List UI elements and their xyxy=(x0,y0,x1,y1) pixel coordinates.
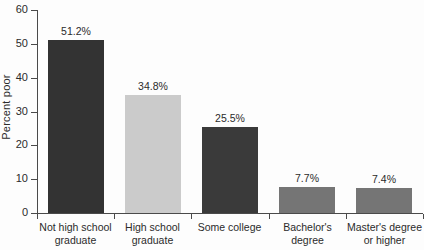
bar xyxy=(48,40,104,213)
x-axis-line xyxy=(37,213,423,214)
y-axis-tick-label: 0 xyxy=(2,207,28,218)
bar xyxy=(356,188,412,213)
bar xyxy=(279,187,335,213)
x-axis-tick xyxy=(191,214,192,219)
y-axis-tick-label: 20 xyxy=(2,139,28,150)
bar-value-label: 51.2% xyxy=(36,26,116,37)
y-axis-tick-label: 40 xyxy=(2,72,28,83)
x-axis-category-label: Bachelor's degree xyxy=(269,221,346,246)
bar-value-label: 34.8% xyxy=(113,81,193,92)
x-axis-category-label: Not high school graduate xyxy=(37,221,114,246)
y-axis-tick-label: 10 xyxy=(2,173,28,184)
x-axis-category-label: Some college xyxy=(191,221,268,234)
x-axis-category-label: Master's degree or higher xyxy=(346,221,423,246)
y-axis-tick-label: 60 xyxy=(2,4,28,15)
bar-chart: Percent poor 0102030405060 51.2%34.8%25.… xyxy=(0,0,424,250)
y-axis-tick-label: 50 xyxy=(2,38,28,49)
bar-value-label: 25.5% xyxy=(190,113,270,124)
y-axis-tick-label: 30 xyxy=(2,106,28,117)
bar xyxy=(202,127,258,213)
y-axis-tick xyxy=(31,78,38,79)
bar-value-label: 7.7% xyxy=(267,173,347,184)
y-axis-tick xyxy=(31,112,38,113)
bar-value-label: 7.4% xyxy=(344,174,424,185)
y-axis-tick xyxy=(31,179,38,180)
x-axis-tick xyxy=(346,214,347,219)
x-axis-tick xyxy=(37,214,38,219)
y-axis-tick xyxy=(31,145,38,146)
x-axis-tick xyxy=(269,214,270,219)
bar xyxy=(125,95,181,213)
y-axis-tick xyxy=(31,10,38,11)
x-axis-tick xyxy=(114,214,115,219)
x-axis-category-label: High school graduate xyxy=(114,221,191,246)
y-axis-tick xyxy=(31,44,38,45)
